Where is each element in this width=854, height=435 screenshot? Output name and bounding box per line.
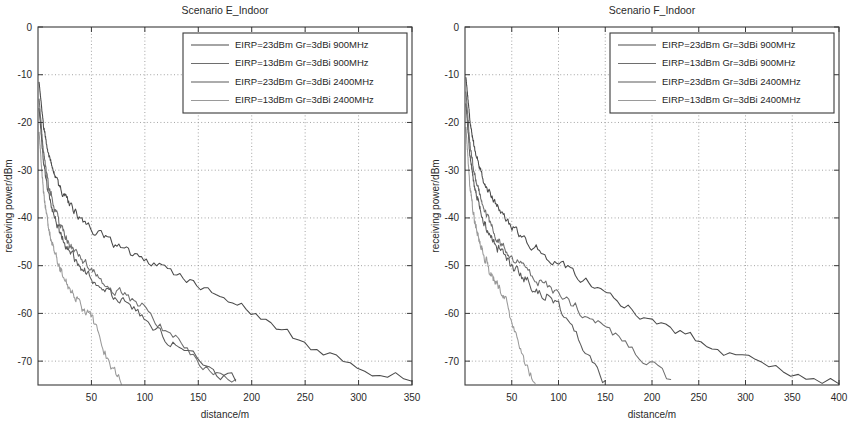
y-tick-label: -20 [445, 117, 460, 128]
series-line-4 [466, 127, 535, 383]
x-tick-label: 150 [597, 392, 614, 403]
x-tick-label: 250 [297, 392, 314, 403]
legend-label-4: EIRP=13dBm Gr=3dBi 2400MHz [662, 94, 801, 105]
right-axis-mask [840, 0, 854, 435]
y-tick-label: -60 [18, 308, 33, 319]
x-tick-label: 200 [644, 392, 661, 403]
y-tick-label: -30 [445, 165, 460, 176]
legend: EIRP=23dBm Gr=3dBi 900MHzEIRP=13dBm Gr=3… [610, 33, 834, 113]
y-tick-label: -50 [445, 260, 460, 271]
x-axis-label: distance/m [201, 409, 249, 420]
x-tick-label: 100 [137, 392, 154, 403]
y-tick-label: -70 [18, 356, 33, 367]
x-axis-label: distance/m [628, 409, 676, 420]
legend-label-3: EIRP=23dBm Gr=3dBi 2400MHz [235, 76, 374, 87]
legend-label-2: EIRP=13dBm Gr=3dBi 900MHz [662, 57, 796, 68]
y-tick-label: 0 [26, 22, 32, 33]
x-tick-label: 350 [404, 392, 421, 403]
series-line-2 [466, 92, 671, 380]
y-axis-label: receiving power/dBm [3, 159, 14, 252]
x-tick-label: 250 [690, 392, 707, 403]
legend: EIRP=23dBm Gr=3dBi 900MHzEIRP=13dBm Gr=3… [183, 33, 407, 113]
x-tick-label: 200 [243, 392, 260, 403]
x-tick-label: 50 [86, 392, 98, 403]
legend-label-1: EIRP=23dBm Gr=3dBi 900MHz [662, 39, 796, 50]
series-line-1 [39, 82, 412, 381]
scenario-e-plot: Scenario E_Indoor501001502002503003500-1… [0, 0, 427, 435]
chart-panel-scenario-e: Scenario E_Indoor501001502002503003500-1… [0, 0, 427, 435]
figure-root: Scenario E_Indoor501001502002503003500-1… [0, 0, 854, 435]
legend-label-1: EIRP=23dBm Gr=3dBi 900MHz [235, 39, 369, 50]
x-tick-label: 400 [831, 392, 848, 403]
y-tick-label: -70 [445, 356, 460, 367]
y-tick-label: -10 [18, 69, 33, 80]
legend-label-3: EIRP=23dBm Gr=3dBi 2400MHz [662, 76, 801, 87]
y-tick-label: -50 [18, 260, 33, 271]
x-tick-label: 350 [784, 392, 801, 403]
series-line-3 [39, 109, 236, 381]
y-tick-label: -30 [18, 165, 33, 176]
x-tick-label: 150 [190, 392, 207, 403]
series-line-3 [466, 104, 605, 383]
legend-label-4: EIRP=13dBm Gr=3dBi 2400MHz [235, 94, 374, 105]
series-line-2 [39, 99, 236, 382]
y-tick-label: -40 [18, 212, 33, 223]
chart-panel-scenario-f: Scenario F_Indoor50100150200250300350400… [427, 0, 854, 435]
y-tick-label: -10 [445, 69, 460, 80]
y-tick-label: -40 [445, 212, 460, 223]
x-tick-label: 50 [506, 392, 518, 403]
y-axis-label: receiving power/dBm [430, 159, 441, 252]
y-tick-label: 0 [453, 22, 459, 33]
right-axis-mask [413, 0, 427, 435]
scenario-f-plot: Scenario F_Indoor50100150200250300350400… [427, 0, 854, 435]
legend-label-2: EIRP=13dBm Gr=3dBi 900MHz [235, 57, 369, 68]
x-tick-label: 300 [350, 392, 367, 403]
x-tick-label: 100 [550, 392, 567, 403]
chart-title: Scenario F_Indoor [609, 4, 696, 16]
series-line-1 [466, 78, 839, 384]
chart-title: Scenario E_Indoor [182, 4, 269, 16]
y-tick-label: -60 [445, 308, 460, 319]
y-tick-label: -20 [18, 117, 33, 128]
x-tick-label: 300 [737, 392, 754, 403]
